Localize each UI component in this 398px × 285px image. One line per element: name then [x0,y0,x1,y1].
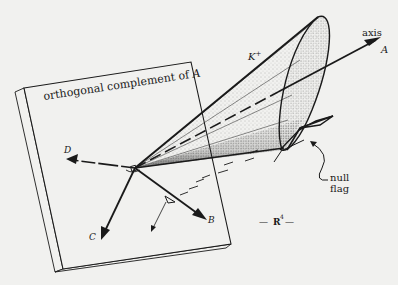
svg-text:—: — [285,217,294,227]
axis-a-label: A [380,44,388,55]
axis-label: axis [362,27,382,38]
null-flag-diagram: orthogonal complement of A K+ axis A D C… [0,0,398,285]
vector-b-label: B [207,215,215,225]
null-flag-label-line2: flag [330,183,350,194]
space-label: — R 4 — [259,213,294,227]
svg-text:—: — [259,217,268,227]
vector-c-label: C [89,232,96,242]
null-flag-pointer [310,141,328,180]
cone-label: K+ [247,50,261,62]
vector-d-label: D [63,145,71,155]
null-flag-label-line1: null [330,172,349,183]
svg-text:4: 4 [280,213,284,220]
